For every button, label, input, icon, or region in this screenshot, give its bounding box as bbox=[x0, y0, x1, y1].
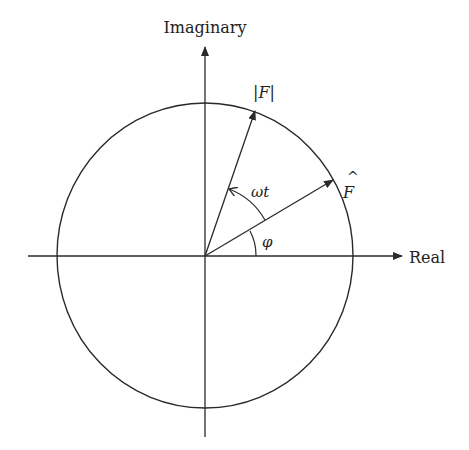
magnitude-vector bbox=[205, 111, 255, 256]
phase-angle-label: φ bbox=[262, 233, 273, 251]
imaginary-axis-label: Imaginary bbox=[164, 18, 247, 37]
rotation-angle-label: ωt bbox=[251, 183, 270, 201]
phase-angle-arc bbox=[250, 231, 256, 256]
phasor-diagram: Imaginary Real |F| ^ F ωt φ bbox=[0, 0, 469, 450]
real-axis-label: Real bbox=[409, 248, 445, 267]
magnitude-vector-label: |F| bbox=[253, 83, 275, 102]
phasor-vector-label: F bbox=[342, 183, 355, 202]
